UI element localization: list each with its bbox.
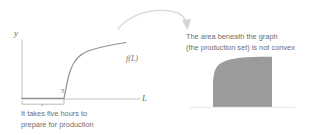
brace-span-five-hours	[22, 102, 64, 107]
transition-arrow-shaft	[118, 10, 186, 29]
y-axis-label: y	[14, 28, 18, 39]
production-set-note-line-2: (the production set) is not convex	[186, 43, 295, 54]
x-tick-label-5: 5	[61, 87, 65, 96]
transition-arrow-head	[182, 19, 191, 30]
brace-caption-line-2: prepare for production	[21, 120, 94, 131]
production-set-note-line-1: The area beneath the graph	[186, 32, 278, 43]
production-curve-label: f(L)	[126, 54, 138, 64]
x-axis-label: L	[142, 93, 147, 104]
production-set-region	[213, 57, 272, 107]
figure-root: y L f(L) 5 It takes five hours to prepar…	[0, 0, 309, 135]
production-curve	[64, 43, 126, 99]
brace-caption-line-1: It takes five hours to	[21, 109, 87, 120]
